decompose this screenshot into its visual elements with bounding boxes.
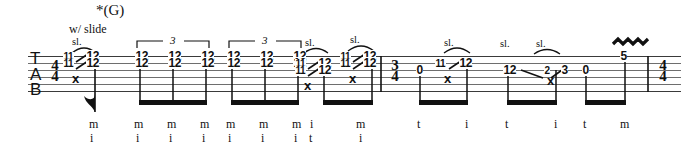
slide-label: sl.: [444, 37, 454, 48]
fingering-label: i: [294, 131, 297, 146]
staff-graphics: [0, 0, 681, 153]
fret-number: 12: [201, 57, 214, 69]
fret-number: 12: [503, 64, 516, 76]
fret-number: 12: [135, 57, 148, 69]
tablature-sheet: *(G) w/ slide: [0, 0, 681, 153]
fingering-label: i: [310, 117, 313, 132]
fingering-label: m: [134, 117, 143, 132]
fingering-label: t: [417, 117, 420, 132]
fingering-label: i: [465, 117, 468, 132]
fret-number: 12: [168, 57, 181, 69]
muted-note-x: x: [349, 72, 356, 85]
fret-number: 12: [86, 57, 99, 69]
fingering-label: i: [261, 131, 264, 146]
fingering-label: m: [620, 117, 629, 132]
slide-label: sl.: [305, 37, 315, 48]
slide-label: sl.: [500, 38, 510, 49]
tuplet-number: 3: [170, 34, 176, 46]
muted-note-x: x: [72, 72, 79, 85]
tab-letter-b: B: [30, 81, 41, 98]
fret-number: 5: [620, 50, 627, 62]
fingering-label: i: [554, 117, 557, 132]
fingering-label: i: [359, 131, 362, 146]
vibrato-icon: [613, 39, 648, 44]
fret-number: 0: [416, 64, 423, 76]
fret-number: 12: [227, 57, 240, 69]
fret-number: 11: [435, 59, 446, 69]
fingering-label: m: [167, 117, 176, 132]
time-sig-denominator: 4: [656, 71, 670, 82]
fret-number: 12: [459, 57, 472, 69]
time-signature-closing: 4 4: [656, 60, 670, 82]
fingering-label: m: [89, 117, 98, 132]
fret-number: 11: [340, 59, 351, 69]
fret-number: 12: [318, 64, 331, 76]
fret-number: 11: [295, 66, 306, 76]
muted-note-x: x: [547, 74, 554, 87]
slide-label: sl.: [536, 38, 546, 49]
slide-label: sl.: [350, 34, 360, 45]
fret-number: 12: [260, 57, 273, 69]
fret-number: 3: [561, 64, 568, 76]
fingering-label: m: [292, 117, 301, 132]
time-sig-denominator: 4: [48, 71, 62, 82]
fingering-label: m: [226, 117, 235, 132]
fret-number: 0: [582, 64, 589, 76]
fingering-label: t: [583, 117, 586, 132]
time-signature-opening: 4 4: [48, 60, 62, 82]
fingering-label: m: [259, 117, 268, 132]
time-signature-middle: 3 4: [388, 60, 402, 82]
fingering-label: i: [90, 131, 93, 146]
slide-label: sl.: [72, 36, 82, 47]
fingering-label: i: [202, 131, 205, 146]
fingering-label: i: [136, 131, 139, 146]
fingering-label: m: [200, 117, 209, 132]
fret-number: 11: [63, 59, 74, 69]
fingering-label: m: [356, 117, 365, 132]
fingering-label: i: [228, 131, 231, 146]
fret-number: 12: [363, 57, 376, 69]
fingering-label: t: [505, 117, 508, 132]
muted-note-x: x: [444, 72, 451, 85]
fingering-label: t: [309, 131, 312, 146]
muted-note-x: x: [304, 79, 311, 92]
tuplet-number: 3: [262, 34, 268, 46]
fingering-label: i: [169, 131, 172, 146]
time-sig-denominator: 4: [388, 71, 402, 82]
